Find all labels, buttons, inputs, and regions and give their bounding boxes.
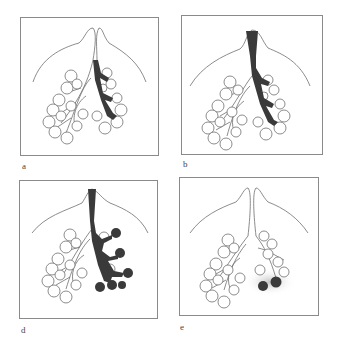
bronchial-tree-diagram-d [20,181,159,320]
panel-label-d: d [21,325,26,335]
bronchial-tree-diagram-b [182,16,324,156]
panel-label-b: b [183,159,188,169]
bronchial-tree-diagram-a [21,18,160,157]
panel-b [181,15,323,155]
panel-e [179,177,319,316]
panel-label-a: a [22,161,26,171]
panel-a [20,17,159,156]
panel-label-e: e [180,322,184,332]
panel-d [19,180,158,319]
bronchial-tree-diagram-e [180,178,320,317]
